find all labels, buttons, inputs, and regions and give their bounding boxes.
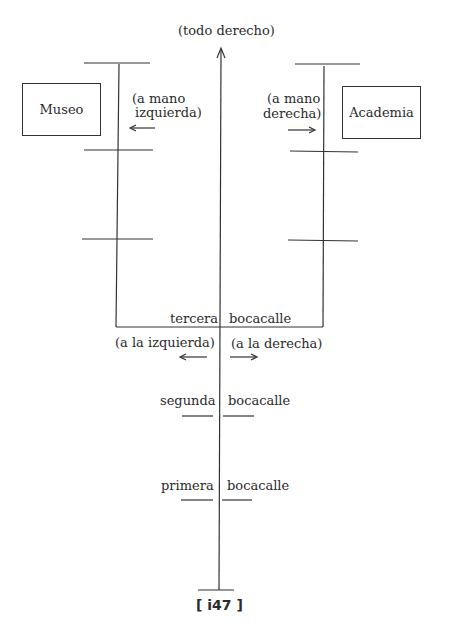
right-turn-label-2: derecha)	[263, 107, 321, 121]
museum-label: Museo	[40, 102, 84, 117]
academy-label: Academia	[349, 105, 414, 120]
first-bocacalle-label: bocacalle	[227, 479, 289, 493]
right-turn-label-1: (a mano	[267, 92, 320, 106]
page-number: [ i47 ]	[196, 597, 243, 613]
left-turn-label-2: izquierda)	[135, 106, 202, 120]
to-left-label: (a la izquierda)	[115, 336, 215, 350]
third-bocacalle-label: bocacalle	[229, 312, 291, 326]
main-street-line	[219, 50, 221, 590]
second-label: segunda	[160, 394, 216, 408]
museum-box: Museo	[22, 83, 101, 136]
to-right-label: (a la derecha)	[231, 337, 322, 351]
second-bocacalle-label: bocacalle	[228, 394, 290, 408]
straight-ahead-label: (todo derecho)	[178, 24, 275, 38]
academy-box: Academia	[342, 86, 421, 139]
third-label: tercera	[170, 312, 218, 326]
first-label: primera	[161, 479, 214, 493]
left-turn-label-1: (a mano	[132, 92, 185, 106]
